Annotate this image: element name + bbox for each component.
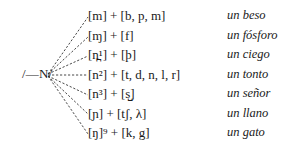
example-phrase: un gato (227, 125, 265, 140)
example-phrase: un tonto (227, 67, 268, 82)
allophone-rule: [n³] + [s̺] (88, 86, 135, 102)
allophone-row: [ŋ]⁹ + [k, g] un gato (88, 125, 286, 143)
allophone-rule: [ɲ] + [tʃ, λ] (88, 106, 146, 122)
allophone-row: [n³] + [s̺] un señor (88, 86, 286, 104)
example-phrase: un beso (227, 8, 266, 23)
example-phrase: un señor (227, 86, 270, 101)
allophone-rule: [m] + [b, p, m] (88, 8, 165, 24)
branch-line-2 (48, 37, 88, 74)
branch-line-3 (48, 56, 88, 74)
allophone-rule: [ŋ]⁹ + [k, g] (88, 125, 150, 141)
allophone-row: [m] + [b, p, m] un beso (88, 8, 286, 26)
allophone-row: [ɲ] + [tʃ, λ] un llano (88, 106, 286, 124)
allophone-row: [n̪¹] + [þ] un ciego (88, 47, 286, 65)
nasal-allophone-diagram: /—N/ [m] + [b, p, m] un beso [ɱ] + [f] u… (0, 0, 286, 160)
example-phrase: un ciego (227, 47, 270, 62)
allophone-rule: [n̪¹] + [þ] (88, 47, 136, 63)
allophone-rule: [ɱ] + [f] (88, 28, 134, 44)
allophone-rule: [n²] + [t, d, n, l, r] (88, 67, 180, 83)
source-phoneme: /—N/ (22, 66, 52, 82)
example-phrase: un llano (227, 106, 268, 121)
branch-line-5 (48, 76, 88, 95)
allophone-row: [ɱ] + [f] un fósforo (88, 28, 286, 46)
allophone-row: [n²] + [t, d, n, l, r] un tonto (88, 67, 286, 85)
branch-line-7 (48, 76, 88, 134)
branch-line-6 (48, 76, 88, 114)
example-phrase: un fósforo (227, 28, 278, 43)
